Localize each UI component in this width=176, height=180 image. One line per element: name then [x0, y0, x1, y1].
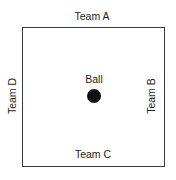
ball-icon [87, 89, 101, 103]
team-c-label: Team C [75, 148, 111, 160]
team-d-label: Team D [6, 78, 18, 114]
ball-label: Ball [85, 73, 103, 85]
team-b-label: Team B [145, 78, 157, 114]
team-a-label: Team A [74, 10, 109, 22]
